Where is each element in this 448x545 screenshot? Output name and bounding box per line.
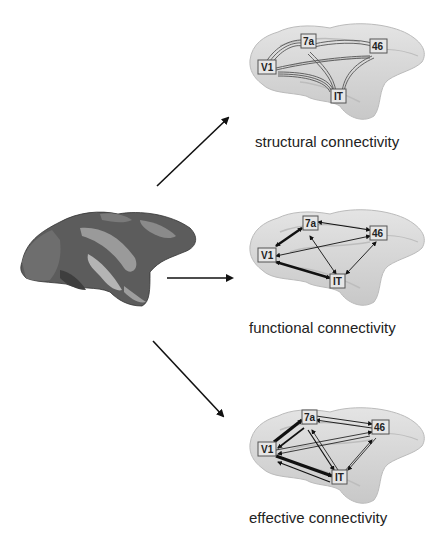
node-7a: 7a — [302, 410, 317, 424]
svg-text:7a: 7a — [305, 218, 317, 229]
caption-functional: functional connectivity — [249, 319, 396, 336]
node-it: IT — [330, 274, 345, 288]
structural-panel: V1 7a 46 IT — [250, 24, 424, 120]
functional-panel: V1 7a 46 IT — [250, 210, 424, 306]
effective-panel: V1 7a 46 IT — [250, 408, 424, 504]
svg-text:46: 46 — [372, 228, 384, 239]
node-v1: V1 — [258, 248, 276, 262]
caption-effective: effective connectivity — [249, 509, 388, 526]
svg-text:46: 46 — [372, 41, 384, 52]
svg-text:IT: IT — [333, 276, 342, 287]
svg-text:V1: V1 — [261, 250, 274, 261]
svg-text:7a: 7a — [304, 412, 316, 423]
caption-structural: structural connectivity — [255, 133, 400, 150]
node-it: IT — [331, 89, 346, 103]
svg-text:IT: IT — [334, 91, 343, 102]
svg-text:V1: V1 — [261, 444, 274, 455]
node-v1: V1 — [258, 60, 276, 74]
svg-text:V1: V1 — [261, 62, 274, 73]
node-it: IT — [332, 470, 347, 484]
node-7a: 7a — [301, 34, 316, 48]
svg-text:IT: IT — [335, 472, 344, 483]
arrow-to-structural — [157, 118, 228, 186]
node-7a: 7a — [303, 216, 318, 230]
source-brain — [21, 212, 196, 306]
svg-text:7a: 7a — [303, 36, 315, 47]
node-46: 46 — [370, 39, 387, 53]
node-46: 46 — [370, 226, 387, 240]
arrow-to-effective — [153, 341, 223, 416]
svg-text:46: 46 — [374, 422, 386, 433]
connectivity-diagram: V1 7a 46 IT structural connectivity V1 7… — [0, 0, 448, 545]
node-46: 46 — [372, 420, 389, 434]
node-v1: V1 — [258, 442, 276, 456]
